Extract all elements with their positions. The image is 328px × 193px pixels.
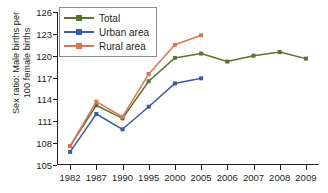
y-tick-label: 108 xyxy=(36,138,52,149)
data-point-marker xyxy=(94,100,98,104)
data-point-marker xyxy=(304,57,308,61)
y-tick-label: 105 xyxy=(36,160,52,171)
x-tick-mark xyxy=(70,165,71,170)
data-point-marker xyxy=(94,112,98,116)
x-tick-label: 2006 xyxy=(217,172,238,183)
data-point-marker xyxy=(173,81,177,85)
x-tick-mark xyxy=(96,165,97,170)
y-tick-mark xyxy=(53,165,57,166)
x-tick-label: 2005 xyxy=(191,172,212,183)
y-tick-label: 114 xyxy=(37,94,52,105)
data-point-marker xyxy=(173,56,177,60)
data-point-marker xyxy=(68,144,72,148)
data-point-marker xyxy=(147,105,151,109)
data-point-marker xyxy=(252,54,256,58)
legend-swatch-icon xyxy=(64,40,94,52)
data-point-marker xyxy=(147,72,151,76)
data-point-marker xyxy=(278,50,282,54)
x-tick-mark xyxy=(280,165,281,170)
y-tick-label: 126 xyxy=(36,7,52,18)
x-tick-label: 2008 xyxy=(269,172,290,183)
legend-item-rural-area[interactable]: Rural area xyxy=(64,39,149,53)
legend-item-total[interactable]: Total xyxy=(64,11,149,25)
x-tick-label: 2000 xyxy=(164,172,185,183)
data-point-marker xyxy=(121,127,125,131)
legend-label: Rural area xyxy=(99,41,146,52)
legend: TotalUrban areaRural area xyxy=(59,7,157,57)
x-tick-mark xyxy=(123,165,124,170)
data-point-marker xyxy=(199,76,203,80)
x-tick-mark xyxy=(306,165,307,170)
legend-label: Total xyxy=(99,13,120,24)
legend-swatch-icon xyxy=(64,12,94,24)
x-tick-label: 2007 xyxy=(243,172,264,183)
x-tick-mark xyxy=(201,165,202,170)
x-tick-label: 1995 xyxy=(138,172,159,183)
x-tick-mark xyxy=(227,165,228,170)
legend-item-urban-area[interactable]: Urban area xyxy=(64,25,149,39)
y-tick-label: 123 xyxy=(36,28,52,39)
series-line-total xyxy=(70,52,306,146)
x-tick-mark xyxy=(175,165,176,170)
data-point-marker xyxy=(147,79,151,83)
data-point-marker xyxy=(199,33,203,37)
data-point-marker xyxy=(225,60,229,64)
legend-label: Urban area xyxy=(99,27,149,38)
x-tick-mark xyxy=(149,165,150,170)
y-tick-label: 117 xyxy=(37,72,52,83)
x-tick-label: 1990 xyxy=(112,172,133,183)
x-tick-label: 1987 xyxy=(86,172,107,183)
y-axis-title: Sex ratio: Male births per 100 female bi… xyxy=(11,0,33,143)
data-point-marker xyxy=(68,150,72,154)
x-tick-mark xyxy=(254,165,255,170)
y-tick-label: 111 xyxy=(38,116,52,127)
data-point-marker xyxy=(173,43,177,47)
line-chart: Sex ratio: Male births per 100 female bi… xyxy=(0,0,328,193)
data-point-marker xyxy=(199,52,203,56)
x-tick-label: 2009 xyxy=(295,172,316,183)
data-point-marker xyxy=(121,115,125,119)
y-tick-label: 120 xyxy=(36,50,52,61)
x-tick-label: 1982 xyxy=(60,172,81,183)
legend-swatch-icon xyxy=(64,26,94,38)
